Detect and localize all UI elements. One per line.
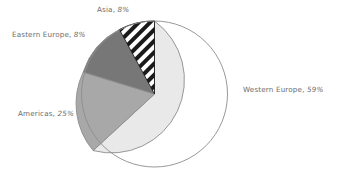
pie-chart: Asia, 8% Eastern Europe, 8% Americas, 25… — [0, 0, 347, 178]
pie-label-eastern-europe-value: 8% — [74, 30, 86, 39]
pie-label-americas: Americas, 25% — [18, 110, 74, 117]
pie-label-americas-value: 25% — [57, 109, 73, 118]
pie-label-asia-name: Asia, — [97, 5, 115, 14]
pie-label-western-europe-value: 59% — [307, 85, 323, 94]
pie-label-asia-value: 8% — [118, 5, 130, 14]
pie-label-americas-name: Americas, — [18, 109, 55, 118]
pie-label-asia: Asia, 8% — [97, 6, 129, 13]
pie-label-western-europe: Western Europe, 59% — [243, 86, 323, 93]
pie-label-eastern-europe-name: Eastern Europe, — [12, 30, 71, 39]
pie-label-western-europe-name: Western Europe, — [243, 85, 305, 94]
pie-label-eastern-europe: Eastern Europe, 8% — [12, 31, 86, 38]
